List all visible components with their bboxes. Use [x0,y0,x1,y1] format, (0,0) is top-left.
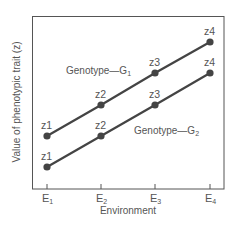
x-tick-label: E3 [150,192,161,205]
data-point [151,69,158,76]
data-point [43,163,50,170]
series-label: Genotype—G2 [134,125,199,137]
data-point [151,101,158,108]
data-point [206,69,213,76]
point-label: z1 [41,119,52,131]
chart: E1 E2 E3 E4 Environment Value of phenoty… [0,0,235,228]
point-label: z1 [41,150,52,162]
x-tick-label: E1 [42,192,53,205]
point-label: z4 [204,56,215,68]
series-genotype-g1: z1 z2 z3 z4 Genotype—G1 [41,25,215,140]
data-point [97,132,104,139]
data-point [43,132,50,139]
point-label: z2 [95,119,106,131]
x-tick-label: E2 [96,192,107,205]
series-line [47,42,210,136]
point-label: z2 [95,88,106,100]
x-axis-title: Environment [100,205,156,216]
x-tick-label: E4 [205,192,216,205]
point-label: z3 [149,56,160,68]
series-label: Genotype—G1 [66,65,131,77]
point-label: z4 [204,25,215,37]
y-axis-title: Value of phenotypic trait (z) [11,42,22,163]
x-ticks [47,184,210,189]
data-point [97,101,104,108]
plot-frame [33,17,225,190]
series-line [47,73,210,167]
x-tick-labels: E1 E2 E3 E4 [42,192,216,205]
data-point [206,38,213,45]
point-label: z3 [149,88,160,100]
